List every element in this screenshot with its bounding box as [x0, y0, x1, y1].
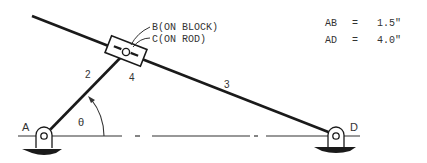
crank-link-2: [44, 52, 126, 136]
label-point-a: A: [22, 121, 30, 133]
angle-theta-arc: [91, 99, 104, 136]
dimension-ad: AD = 4.0": [325, 35, 401, 46]
label-link-2: 2: [85, 69, 91, 80]
svg-text:AB: AB: [325, 18, 337, 29]
pin-b-c: [122, 48, 129, 55]
svg-text:AD: AD: [325, 35, 337, 46]
svg-text:1.5": 1.5": [377, 18, 401, 29]
linkage-diagram: A D 2 3 4 θ B(ON BLOCK) C(ON ROD) AB = 1…: [0, 0, 427, 163]
label-link-3: 3: [224, 79, 230, 90]
dimension-ab: AB = 1.5": [325, 18, 401, 29]
svg-text:=: =: [352, 18, 358, 29]
label-point-c: C(ON ROD): [152, 34, 206, 45]
angle-arrowhead: [88, 96, 95, 103]
label-point-b: B(ON BLOCK): [152, 22, 218, 33]
label-point-d: D: [350, 121, 358, 133]
label-link-4: 4: [129, 72, 135, 83]
leader-b: [131, 27, 150, 45]
label-angle-theta: θ: [78, 116, 84, 128]
svg-text:4.0": 4.0": [377, 35, 401, 46]
svg-text:=: =: [352, 35, 358, 46]
